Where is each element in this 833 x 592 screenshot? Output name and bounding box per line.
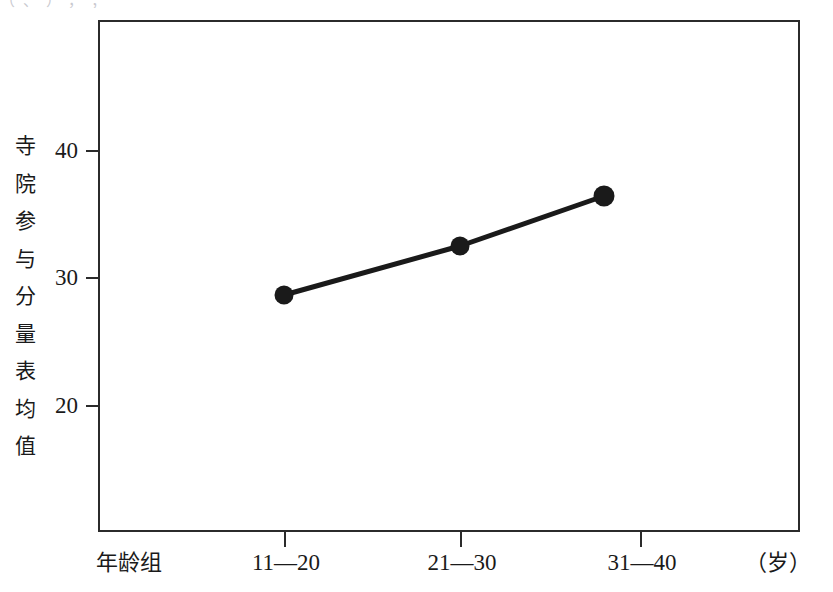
x-axis-tick-label: 11—20 (252, 550, 320, 576)
y-axis-title-char: 值 (8, 428, 42, 466)
y-axis-title-char: 表 (8, 353, 42, 391)
x-axis-tick-21-30: 21—30 (460, 532, 462, 547)
y-axis-title-char: 院 (8, 166, 42, 204)
y-axis-tick-label: 20 (55, 394, 78, 418)
cut-off-caption-remnant: （ 、 ） ， ； (0, 0, 420, 8)
x-axis-unit-label: （岁） (745, 550, 811, 576)
y-axis-title-char: 与 (8, 241, 42, 279)
y-axis-title-char: 均 (8, 391, 42, 429)
x-axis-tick-31-40: 31—40 (640, 532, 642, 547)
y-axis-tick-label: 40 (55, 139, 78, 163)
y-axis-title-char: 分 (8, 278, 42, 316)
y-axis-title-char: 量 (8, 316, 42, 354)
x-axis-tick-label: 21—30 (428, 550, 497, 576)
x-axis-tick-label: 31—40 (608, 550, 677, 576)
y-axis-title-char: 参 (8, 203, 42, 241)
plot-area (100, 22, 798, 530)
y-axis-title-char: 寺 (8, 128, 42, 166)
x-axis-title: 年龄组 (96, 550, 162, 576)
x-axis-tick-11-20: 11—20 (284, 532, 286, 547)
y-axis-tick-label: 30 (55, 266, 78, 290)
plot-frame (98, 20, 800, 532)
y-axis-title: 寺 院 参 与 分 量 表 均 值 (8, 128, 42, 466)
figure-line-chart: （ 、 ） ， ； 寺 院 参 与 分 量 表 均 值 40 30 20 11—… (0, 0, 833, 592)
